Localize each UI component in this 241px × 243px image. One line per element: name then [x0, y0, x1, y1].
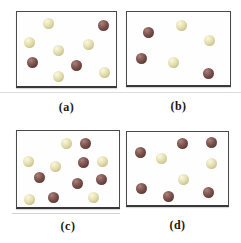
light-particle	[43, 18, 54, 29]
dark-particle	[177, 138, 188, 149]
particle-box-d	[126, 131, 229, 207]
light-particle	[24, 37, 35, 48]
dark-particle	[71, 60, 82, 71]
panel-label-d: (d)	[126, 219, 229, 231]
light-particle	[88, 192, 99, 203]
light-particle	[61, 138, 72, 149]
dark-particle	[135, 147, 146, 158]
light-particle	[204, 35, 215, 46]
dark-particle	[72, 178, 83, 189]
panel-label-b: (b)	[126, 100, 231, 112]
dark-particle	[143, 27, 154, 38]
light-particle	[53, 45, 64, 56]
light-particle	[178, 174, 189, 185]
dark-particle	[27, 57, 38, 68]
dark-particle	[78, 157, 89, 168]
dark-particle	[80, 138, 91, 149]
particle-box-a	[16, 11, 117, 88]
scan-artifact-line-top	[0, 92, 241, 93]
light-particle	[97, 156, 108, 167]
dark-particle	[48, 192, 59, 203]
light-particle	[24, 194, 35, 205]
dark-particle	[163, 191, 174, 202]
light-particle	[23, 156, 34, 167]
light-particle	[99, 67, 110, 78]
particle-box-c	[16, 130, 120, 209]
dark-particle	[136, 183, 147, 194]
dark-particle	[203, 187, 214, 198]
light-particle	[168, 57, 179, 68]
figure-particle-diagrams: (a) (b) (c) (d)	[0, 0, 241, 243]
dark-particle	[206, 137, 217, 148]
dark-particle	[136, 53, 147, 64]
panel-label-a: (a)	[16, 101, 117, 113]
dark-particle	[96, 174, 107, 185]
light-particle	[176, 20, 187, 31]
panel-label-c: (c)	[16, 220, 120, 232]
dark-particle	[98, 20, 109, 31]
particle-box-b	[126, 11, 231, 87]
light-particle	[83, 39, 94, 50]
light-particle	[156, 153, 167, 164]
light-particle	[206, 158, 217, 169]
light-particle	[50, 161, 61, 172]
dark-particle	[203, 68, 214, 79]
scan-artifact-line-bottom	[12, 213, 120, 214]
light-particle	[53, 71, 64, 82]
dark-particle	[34, 172, 45, 183]
